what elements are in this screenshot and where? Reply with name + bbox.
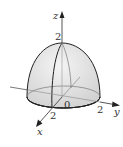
z-axis-label: z xyxy=(52,10,59,21)
y-tick-label: 2 xyxy=(97,104,103,115)
origin-label: 0 xyxy=(64,99,70,110)
x-tick-label: 2 xyxy=(50,110,56,121)
x-axis-label: x xyxy=(37,126,43,137)
z-axis-arrow xyxy=(60,11,65,18)
y-axis-label: y xyxy=(113,106,120,117)
z-tick-label: 2 xyxy=(55,31,61,42)
hemisphere-diagram: z 2 0 2 2 y x xyxy=(0,0,123,147)
y-axis-back xyxy=(10,87,28,90)
